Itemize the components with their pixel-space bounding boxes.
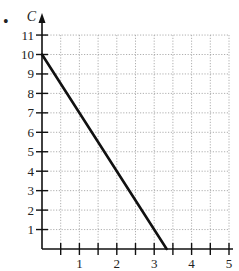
y-tick-label: 2 [28,203,35,218]
x-tick-label: 5 [226,256,233,271]
labels: 123451234567891011C [21,9,232,271]
x-tick-label: 2 [114,256,121,271]
y-tick-label: 10 [21,47,34,62]
y-axis-arrow [39,13,46,23]
y-tick-label: 5 [28,144,35,159]
bullet: • [3,13,9,30]
y-axis-label: C [27,9,37,24]
y-tick-label: 6 [28,125,35,140]
grid [42,35,229,249]
axes [36,13,233,255]
x-tick-label: 4 [188,256,195,271]
x-tick-label: 3 [151,256,158,271]
y-tick-label: 1 [28,222,35,237]
y-tick-label: 4 [28,164,35,179]
y-tick-label: 11 [21,28,34,43]
chart: • 123451234567891011C [0,0,239,271]
y-tick-label: 7 [28,105,35,120]
y-tick-label: 3 [28,183,35,198]
y-tick-label: 9 [28,66,35,81]
x-tick-label: 1 [76,256,83,271]
y-tick-label: 8 [28,86,35,101]
